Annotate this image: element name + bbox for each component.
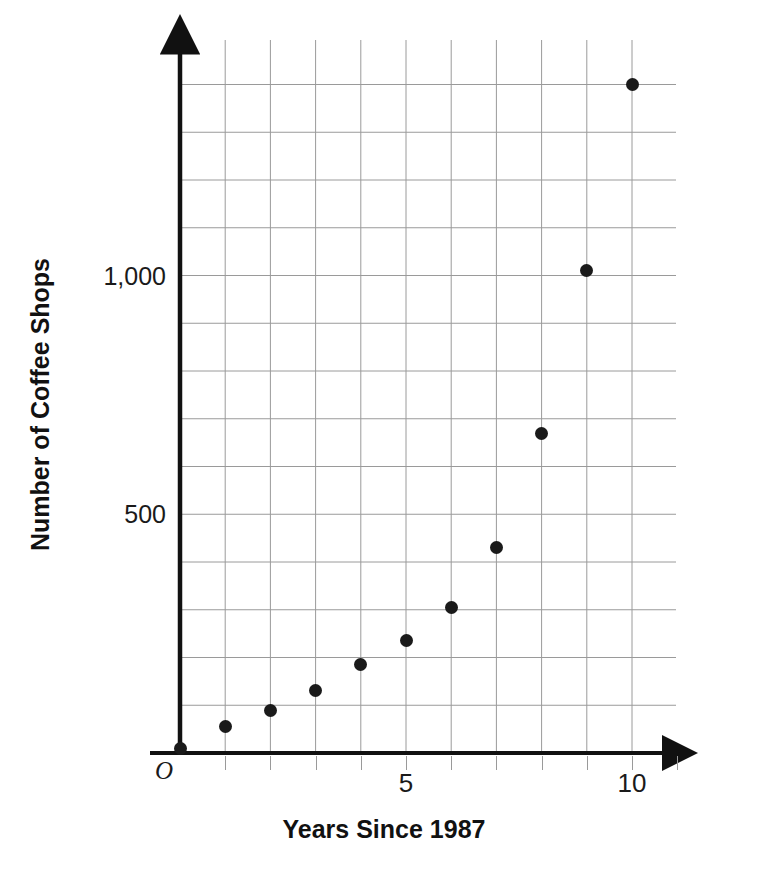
x-axis-tick-label: 5	[399, 768, 413, 799]
origin-label: O	[155, 757, 173, 785]
plot-overlay: 510	[0, 0, 768, 883]
data-point	[354, 658, 367, 671]
x-axis-tick-mark	[316, 756, 317, 770]
x-axis-tick-mark	[270, 756, 271, 770]
data-point	[535, 427, 548, 440]
data-point	[174, 742, 187, 755]
x-axis-tick-mark	[361, 756, 362, 770]
x-axis-tick-mark	[406, 756, 407, 770]
x-axis-tick-mark	[225, 756, 226, 770]
data-point	[400, 634, 413, 647]
x-axis-tick-mark	[587, 756, 588, 770]
x-axis-title: Years Since 1987	[0, 815, 768, 844]
x-axis-tick-mark	[542, 756, 543, 770]
x-axis-tick-mark	[677, 756, 678, 770]
data-point	[626, 78, 639, 91]
data-point	[264, 704, 277, 717]
x-axis-tick-mark	[496, 756, 497, 770]
scatter-plot-figure: 5001,000 510 O Number of Coffee Shops Ye…	[0, 0, 768, 883]
data-point	[309, 684, 322, 697]
x-axis-tick-mark	[451, 756, 452, 770]
data-point	[219, 720, 232, 733]
data-point	[490, 541, 503, 554]
x-axis-tick-mark	[632, 756, 633, 770]
data-point	[580, 264, 593, 277]
x-axis-tick-label: 10	[618, 768, 647, 799]
data-point	[445, 601, 458, 614]
y-axis-title: Number of Coffee Shops	[26, 195, 55, 615]
